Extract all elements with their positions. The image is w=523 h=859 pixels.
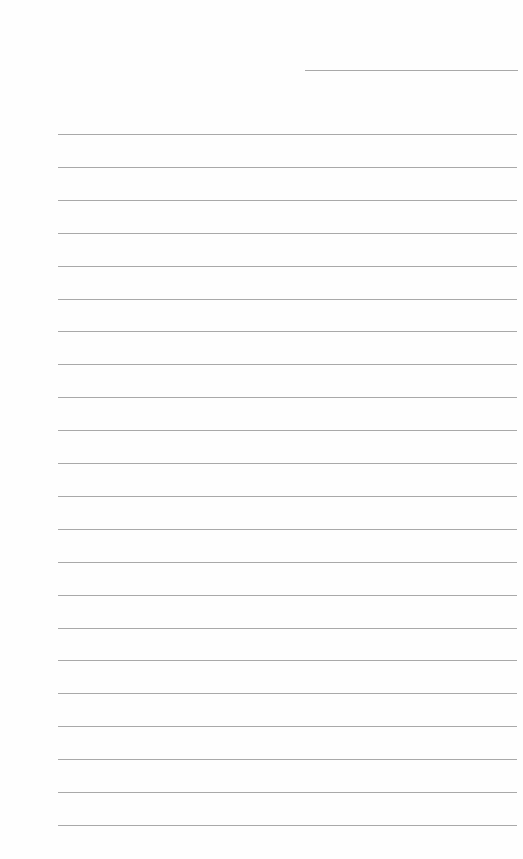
ruled-line [58,233,517,234]
ruled-line [58,364,517,365]
ruled-line [58,726,517,727]
ruled-line [58,200,517,201]
ruled-line [58,529,517,530]
lined-paper-page [0,0,523,859]
date-line [305,70,518,71]
ruled-line [58,825,517,826]
ruled-line [58,299,517,300]
ruled-line [58,759,517,760]
ruled-line [58,628,517,629]
ruled-line [58,167,517,168]
ruled-line [58,595,517,596]
ruled-line [58,266,517,267]
ruled-line [58,660,517,661]
ruled-line [58,792,517,793]
ruled-line [58,562,517,563]
ruled-line [58,134,517,135]
ruled-line [58,430,517,431]
ruled-line [58,331,517,332]
ruled-line [58,463,517,464]
ruled-line [58,693,517,694]
ruled-line [58,496,517,497]
ruled-line [58,397,517,398]
